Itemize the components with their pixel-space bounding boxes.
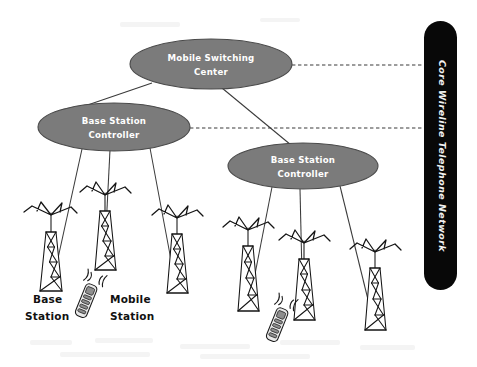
bsc-left-ellipse bbox=[38, 103, 190, 151]
base-station-controller-right[interactable]: Base Station Controller bbox=[228, 143, 378, 189]
base-station-caption-line2: Station bbox=[25, 310, 69, 322]
tower-left-2[interactable] bbox=[80, 182, 131, 270]
core-wireline-telephone-network[interactable]: Core Wireline Telephone Network bbox=[424, 21, 457, 290]
mobile-switching-center[interactable]: Mobile Switching Center bbox=[130, 39, 292, 89]
base-station-caption-line1: Base bbox=[33, 293, 62, 305]
tower-right-3[interactable] bbox=[350, 239, 401, 330]
tower-right-1[interactable] bbox=[223, 217, 274, 311]
bsc-right-ellipse bbox=[228, 143, 378, 189]
mobile-station-caption-line2: Station bbox=[110, 310, 154, 322]
base-station-caption: Base Station bbox=[25, 293, 69, 322]
link-msc-bsc-right bbox=[222, 88, 291, 145]
mobile-station-caption-line1: Mobile bbox=[110, 293, 151, 305]
tower-right-2[interactable] bbox=[279, 230, 330, 320]
mobile-station-caption: Mobile Station bbox=[110, 293, 154, 322]
tower-left-3[interactable] bbox=[152, 205, 203, 293]
bsc-right-label-line2: Controller bbox=[277, 169, 329, 179]
mobile-station-right[interactable] bbox=[261, 292, 298, 344]
tower-left-1[interactable] bbox=[24, 202, 77, 291]
bsc-left-label-line2: Controller bbox=[88, 130, 140, 140]
core-network-label: Core Wireline Telephone Network bbox=[437, 60, 448, 252]
msc-label-line1: Mobile Switching bbox=[168, 53, 255, 63]
mobile-station-left[interactable] bbox=[70, 268, 107, 320]
bsc-left-label-line1: Base Station bbox=[82, 116, 146, 126]
base-station-controller-left[interactable]: Base Station Controller bbox=[38, 103, 190, 151]
msc-ellipse bbox=[130, 39, 292, 89]
bsc-right-label-line1: Base Station bbox=[271, 155, 335, 165]
msc-label-line2: Center bbox=[194, 67, 228, 77]
diagram-canvas: Core Wireline Telephone Network Mobile S… bbox=[0, 0, 477, 367]
